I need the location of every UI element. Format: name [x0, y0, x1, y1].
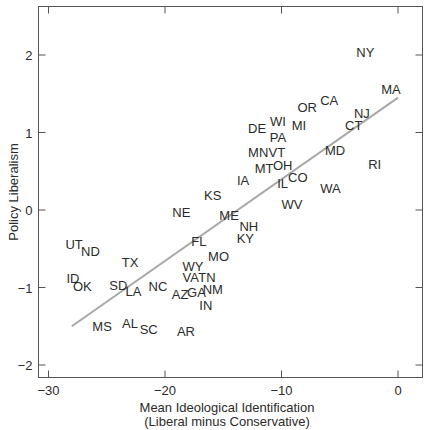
state-label-wa: WA — [320, 181, 341, 196]
y-tick-label: −2 — [18, 358, 33, 373]
x-tick-label: −10 — [270, 383, 292, 398]
state-label-nd: ND — [81, 244, 100, 259]
state-label-nc: NC — [149, 279, 168, 294]
state-label-la: LA — [126, 284, 142, 299]
state-label-ok: OK — [73, 279, 92, 294]
y-tick-label: 2 — [25, 48, 32, 63]
x-axis-title: Mean Ideological Identification — [140, 400, 315, 415]
state-label-ny: NY — [356, 45, 374, 60]
state-label-il: IL — [277, 176, 288, 191]
axis-tick-labels: −30−20−100210−1−2 — [18, 48, 402, 398]
state-label-ma: MA — [381, 82, 401, 97]
state-label-az: AZ — [172, 287, 189, 302]
state-label-de: DE — [248, 121, 266, 136]
state-label-tx: TX — [122, 255, 139, 270]
state-label-mo: MO — [208, 249, 229, 264]
state-label-wi: WI — [270, 114, 286, 129]
y-tick-label: 1 — [25, 126, 32, 141]
state-label-ks: KS — [204, 188, 222, 203]
y-axis-title: Policy Liberalism — [6, 143, 21, 241]
state-label-ca: CA — [320, 93, 338, 108]
x-tick-label: −20 — [154, 383, 176, 398]
state-label-fl: FL — [191, 234, 206, 249]
state-label-in: IN — [199, 298, 212, 313]
state-label-ri: RI — [368, 157, 381, 172]
state-label-ms: MS — [92, 319, 112, 334]
x-tick-label: −30 — [37, 383, 59, 398]
state-label-wv: WV — [282, 197, 303, 212]
state-label-mi: MI — [292, 118, 306, 133]
state-label-co: CO — [288, 170, 308, 185]
state-label-nm: NM — [203, 282, 223, 297]
state-label-ar: AR — [177, 324, 195, 339]
state-label-mt: MT — [255, 161, 274, 176]
x-tick-label: 0 — [394, 383, 401, 398]
state-label-sc: SC — [140, 322, 158, 337]
scatter-chart: −30−20−100210−1−2 NYMACAORNJWIMICTDEPAMN… — [0, 0, 428, 430]
state-label-md: MD — [325, 143, 345, 158]
state-label-me: ME — [219, 208, 239, 223]
x-axis-subtitle: (Liberal minus Conservative) — [144, 414, 309, 429]
state-label-mn: MN — [248, 145, 268, 160]
state-label-va: VA — [182, 270, 199, 285]
state-label-pa: PA — [270, 130, 287, 145]
state-label-ct: CT — [345, 118, 362, 133]
state-label-al: AL — [122, 316, 138, 331]
y-tick-label: −1 — [18, 281, 33, 296]
state-label-ky: KY — [237, 231, 255, 246]
y-tick-label: 0 — [25, 203, 32, 218]
state-label-ia: IA — [237, 173, 250, 188]
state-label-ne: NE — [172, 205, 190, 220]
state-label-or: OR — [297, 100, 317, 115]
